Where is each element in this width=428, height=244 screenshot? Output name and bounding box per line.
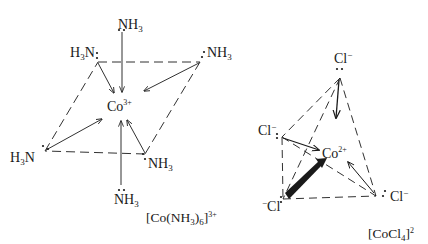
ligand-cl-top: Cl− <box>334 50 352 66</box>
ligand-cl-right: Cl− <box>390 188 408 204</box>
ligand-cl-bottom-left: −Cl <box>262 198 280 214</box>
coordinate-bond-arrows-tetra <box>283 80 374 193</box>
lone-pair-dots-tetra <box>276 68 386 203</box>
ligand-h3n-lower-left: H3N <box>10 150 35 167</box>
ligand-h3n-upper-left: H3N <box>70 45 95 62</box>
ligand-nh3-top: NH3 <box>118 17 143 34</box>
ligand-cl-left: Cl− <box>258 122 276 138</box>
tetrahedral-complex: Cl− Cl− −Cl Cl− Co2+ [CoCl4]2 <box>258 50 414 243</box>
central-ion-co3: Co3+ <box>107 98 132 114</box>
octahedral-complex: NH3 H3N NH3 H3N NH3 NH3 Co3+ [Co(NH3)6]3… <box>10 17 232 227</box>
ligand-nh3-bottom: NH3 <box>114 192 139 209</box>
wedge-bond <box>285 160 323 199</box>
ligand-nh3-lower-right: NH3 <box>148 156 173 173</box>
tetrahedron-edges <box>282 78 376 199</box>
caption-cocl4: [CoCl4]2 <box>368 226 414 243</box>
coordination-complexes-figure: NH3 H3N NH3 H3N NH3 NH3 Co3+ [Co(NH3)6]3… <box>0 0 428 244</box>
central-ion-co2: Co2+ <box>322 145 347 161</box>
ligand-nh3-upper-right: NH3 <box>207 45 232 62</box>
lone-pair-dots <box>42 29 205 191</box>
caption-co-nh3-6: [Co(NH3)6]3+ <box>146 210 217 227</box>
